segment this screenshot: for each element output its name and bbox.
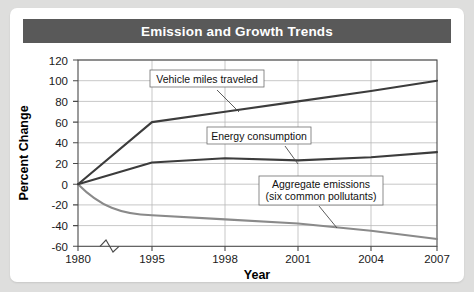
y-tick-label: 20 xyxy=(55,158,68,170)
y-tick-labels: 120 100 80 60 40 20 0 -20 -40 -60 xyxy=(49,55,68,253)
y-tick-label: -20 xyxy=(51,199,68,211)
annotation-vehicle-miles-traveled: Vehicle miles traveled xyxy=(150,70,264,112)
y-tick-label: 40 xyxy=(55,137,68,149)
plot-frame xyxy=(78,60,437,246)
x-tick-label: 1995 xyxy=(139,253,165,265)
chart-title-bar: Emission and Growth Trends xyxy=(23,19,451,43)
x-tick-labels: 1980 1995 1998 2001 2004 2007 xyxy=(65,253,450,265)
y-tick-label: 0 xyxy=(62,179,68,191)
x-axis-title: Year xyxy=(244,268,271,282)
y-tick-label: 100 xyxy=(49,75,68,87)
chart-title: Emission and Growth Trends xyxy=(141,24,333,39)
y-tick-label: 60 xyxy=(55,117,68,129)
annotation-label-emissions-line1: Aggregate emissions xyxy=(272,178,370,190)
grid-vertical xyxy=(152,60,371,246)
annotation-aggregate-emissions: Aggregate emissions (six common pollutan… xyxy=(259,176,383,228)
chart-svg: 120 100 80 60 40 20 0 -20 -40 -60 Percen… xyxy=(10,43,464,282)
x-tick-label: 2007 xyxy=(424,253,450,265)
chart-card: Emission and Growth Trends xyxy=(10,8,464,282)
annotation-label-energy: Energy consumption xyxy=(211,130,307,142)
annotation-label-vmt: Vehicle miles traveled xyxy=(156,73,258,85)
y-axis-title: Percent Change xyxy=(17,105,31,200)
y-tick-label: 80 xyxy=(55,96,68,108)
x-tick-label: 2001 xyxy=(285,253,311,265)
y-tick-marks xyxy=(73,60,78,246)
y-tick-label: -60 xyxy=(51,241,68,253)
chart-plot-area: 120 100 80 60 40 20 0 -20 -40 -60 Percen… xyxy=(10,43,464,282)
y-tick-label: 120 xyxy=(49,55,68,67)
x-tick-label: 1998 xyxy=(212,253,238,265)
y-tick-label: -40 xyxy=(51,220,68,232)
x-tick-label: 1980 xyxy=(65,253,91,265)
x-tick-marks xyxy=(78,246,437,251)
x-tick-label: 2004 xyxy=(358,253,384,265)
annotation-label-emissions-line2: (six common pollutants) xyxy=(266,190,377,202)
